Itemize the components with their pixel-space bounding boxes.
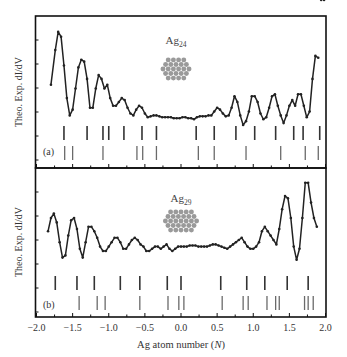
panel-b-level-bars — [55, 276, 313, 310]
ag24-cluster-icon — [161, 57, 192, 80]
svg-text:1.0: 1.0 — [247, 322, 260, 333]
ag29-cluster-icon — [163, 209, 199, 232]
svg-text:−0.5: −0.5 — [136, 322, 154, 333]
panel-b: Ag29 (b) Theo. Exp. dI/dV — [13, 168, 326, 317]
panel-a-y-label: Theo. Exp. dI/dV — [13, 56, 24, 127]
panel-a: Ag24 (a) Theo. Exp. dI/dV — [13, 0, 326, 168]
svg-text:0.5: 0.5 — [211, 322, 224, 333]
panel-b-cluster-label: Ag29 — [171, 192, 192, 207]
panel-a-tag: (a) — [43, 146, 54, 158]
panel-b-tag: (b) — [43, 299, 55, 311]
x-axis-tick-labels: −2.0−1.5−1.0−0.50.00.51.01.52.0 — [27, 322, 331, 333]
svg-text:−2.0: −2.0 — [27, 322, 45, 333]
svg-text:1.5: 1.5 — [283, 322, 296, 333]
svg-text:−1.0: −1.0 — [100, 322, 118, 333]
svg-text:−1.5: −1.5 — [64, 322, 82, 333]
x-axis-ticks — [36, 40, 326, 317]
svg-text:2.0: 2.0 — [319, 322, 332, 333]
figure: Ag24 (a) Theo. Exp. dI/dV Ag29 (b) Theo.… — [0, 0, 347, 357]
svg-text:0.0: 0.0 — [175, 322, 188, 333]
panel-a-cluster-label: Ag24 — [166, 34, 187, 49]
panel-a-level-bars — [64, 126, 320, 160]
panel-b-y-label: Theo. Exp. dI/dV — [13, 206, 24, 277]
x-axis-label: Ag atom number (N) — [137, 339, 225, 351]
